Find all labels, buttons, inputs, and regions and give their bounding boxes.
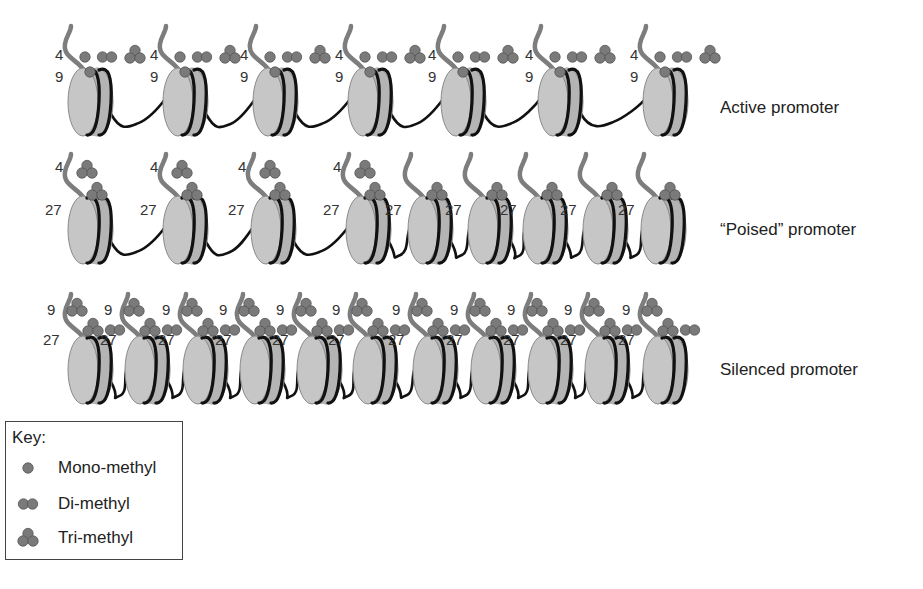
tri-methyl-icon	[125, 45, 145, 63]
mono-methyl-icon	[655, 52, 665, 62]
key-item-tri: Tri-methyl	[12, 526, 133, 550]
di-methyl-icon	[470, 52, 489, 62]
histone-tail	[250, 26, 270, 72]
residue-label-4: 4	[428, 46, 436, 63]
nucleosome	[538, 68, 583, 136]
tri-methyl-icon	[498, 45, 518, 63]
residue-label-9: 9	[450, 301, 458, 318]
tri-methyl-icon	[368, 318, 388, 336]
residue-label-9: 9	[276, 301, 284, 318]
row-label-silenced: Silenced promoter	[720, 360, 858, 380]
histone-tail	[160, 26, 180, 72]
histone-tail	[640, 26, 660, 72]
residue-label-27: 27	[446, 331, 463, 348]
residue-label-27: 27	[618, 201, 635, 218]
mono-methyl-icon	[458, 67, 468, 77]
tri-methyl-icon	[270, 182, 290, 200]
histone-tail	[580, 154, 600, 200]
tri-methyl-icon	[172, 160, 192, 178]
nucleosome	[643, 336, 688, 404]
tri-methyl-icon	[602, 182, 622, 200]
residue-label-27: 27	[215, 331, 232, 348]
residue-label-4: 4	[150, 46, 158, 63]
tri-methyl-icon	[658, 318, 678, 336]
residue-label-9: 9	[55, 68, 63, 85]
residue-label-4: 4	[525, 46, 533, 63]
residue-label-27: 27	[385, 201, 402, 218]
nucleosome	[163, 196, 208, 264]
row-label-poised: “Poised” promoter	[720, 220, 856, 240]
residue-label-9: 9	[219, 301, 227, 318]
linker-dna	[581, 98, 646, 126]
linker-dna	[111, 226, 166, 255]
nucleosome	[68, 196, 113, 264]
linker-dna	[111, 98, 166, 127]
di-methyl-icon	[97, 52, 116, 62]
di-methyl-icon	[12, 492, 48, 516]
row-label-active: Active promoter	[720, 98, 839, 118]
residue-label-27: 27	[500, 201, 517, 218]
residue-label-9: 9	[162, 301, 170, 318]
row-0: 49494949494949	[55, 26, 720, 136]
residue-label-27: 27	[323, 201, 340, 218]
histone-tail	[535, 26, 555, 72]
residue-label-27: 27	[140, 201, 157, 218]
di-methyl-icon	[672, 52, 691, 62]
residue-label-27: 27	[388, 331, 405, 348]
residue-label-27: 27	[100, 331, 117, 348]
key-legend: Key: Mono-methyl Di-methyl Tri-methyl	[5, 421, 183, 560]
nucleosome	[253, 68, 298, 136]
row-2: 927927927927927927927927927927927	[43, 294, 700, 404]
linker-dna	[206, 98, 256, 127]
nucleosome	[641, 196, 686, 264]
residue-label-4: 4	[333, 158, 341, 175]
residue-label-9: 9	[630, 68, 638, 85]
residue-label-27: 27	[560, 201, 577, 218]
mono-methyl-icon	[365, 67, 375, 77]
mono-methyl-icon	[180, 67, 190, 77]
key-label-mono: Mono-methyl	[58, 458, 156, 478]
mono-methyl-icon	[270, 67, 280, 77]
di-methyl-icon	[282, 52, 301, 62]
row-1: 4274274274272727272727	[45, 154, 686, 264]
residue-label-27: 27	[560, 331, 577, 348]
mono-methyl-icon	[360, 52, 370, 62]
residue-label-27: 27	[503, 331, 520, 348]
di-methyl-icon	[680, 325, 699, 335]
residue-label-9: 9	[392, 301, 400, 318]
histone-tail	[405, 154, 425, 200]
nucleosome	[348, 68, 393, 136]
di-methyl-icon	[567, 52, 586, 62]
linker-dna	[206, 226, 254, 255]
mono-methyl-icon	[555, 67, 565, 77]
histone-tail	[438, 26, 458, 72]
residue-label-9: 9	[525, 68, 533, 85]
nucleosome	[251, 196, 296, 264]
tri-methyl-icon	[87, 182, 107, 200]
residue-label-27: 27	[445, 201, 462, 218]
mono-methyl-icon	[12, 456, 48, 480]
residue-label-4: 4	[335, 46, 343, 63]
tri-methyl-icon	[310, 45, 330, 63]
key-item-mono: Mono-methyl	[12, 456, 156, 480]
tri-methyl-icon	[700, 45, 720, 63]
residue-label-4: 4	[630, 46, 638, 63]
linker-dna	[296, 98, 351, 127]
residue-label-9: 9	[240, 68, 248, 85]
residue-label-27: 27	[618, 331, 635, 348]
residue-label-4: 4	[55, 158, 63, 175]
residue-label-9: 9	[564, 301, 572, 318]
residue-label-9: 9	[335, 68, 343, 85]
mono-methyl-icon	[80, 52, 90, 62]
mono-methyl-icon	[175, 52, 185, 62]
residue-label-9: 9	[332, 301, 340, 318]
residue-label-4: 4	[150, 158, 158, 175]
tri-methyl-icon	[595, 45, 615, 63]
histone-tail	[345, 26, 365, 72]
mono-methyl-icon	[550, 52, 560, 62]
residue-label-27: 27	[158, 331, 175, 348]
mono-methyl-icon	[265, 52, 275, 62]
nucleosome	[441, 68, 486, 136]
residue-label-9: 9	[47, 301, 55, 318]
residue-label-27: 27	[45, 201, 62, 218]
